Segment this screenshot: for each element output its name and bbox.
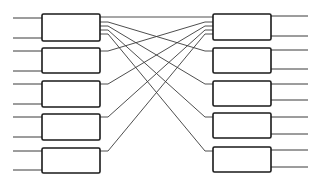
left-block-l3 [42,81,100,107]
left-block-l2 [42,48,100,73]
right-block-column [213,14,271,172]
right-block-r3 [213,81,271,106]
wire-l5-to-r1 [100,34,213,151]
wire-l3-to-r1 [100,26,213,84]
wire-l2-to-r1 [100,22,213,51]
right-block-r1 [213,14,271,40]
left-block-column [42,14,100,173]
left-block-l1 [42,14,100,41]
left-block-l4 [42,114,100,140]
diagram-svg [0,0,322,182]
right-block-r5 [213,147,271,172]
wire-l4-to-r1 [100,30,213,117]
interconnect-diagram [0,0,322,182]
connection-wires [100,17,213,151]
left-block-l5 [42,148,100,173]
right-block-r4 [213,113,271,138]
right-block-r2 [213,48,271,73]
